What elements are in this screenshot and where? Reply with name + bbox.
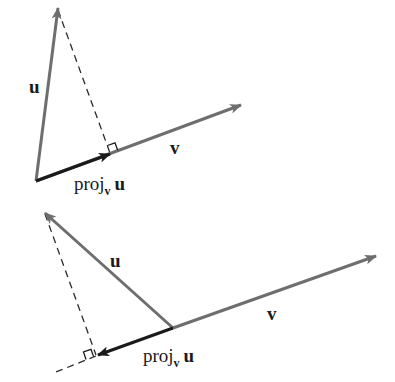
proj-vector: u xyxy=(184,345,195,366)
label-v: v xyxy=(170,138,180,157)
label-projection: projvu xyxy=(143,346,194,365)
proj-prefix: proj xyxy=(74,173,105,194)
proj-prefix: proj xyxy=(143,345,174,366)
label-u: u xyxy=(29,77,40,96)
diagram-acute xyxy=(36,8,241,181)
label-v: v xyxy=(267,304,277,323)
proj-subscript: v xyxy=(105,184,111,198)
proj-subscript: v xyxy=(174,356,180,370)
v-extension-dashed-line xyxy=(56,356,96,372)
vector-projection-figure xyxy=(0,0,395,382)
label-projection: projvu xyxy=(74,174,125,193)
perpendicular-dashed-line xyxy=(58,10,110,153)
label-u: u xyxy=(110,251,121,270)
proj-vector: u xyxy=(115,173,126,194)
diagram-obtuse xyxy=(45,213,376,372)
vector-u-arrow xyxy=(45,213,173,328)
